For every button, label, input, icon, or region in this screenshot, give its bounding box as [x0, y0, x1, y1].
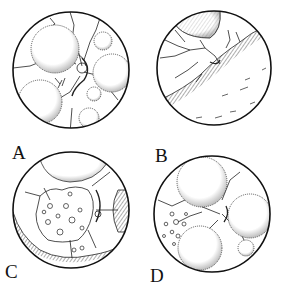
panel-label-b: B — [155, 146, 168, 165]
panel-d — [154, 156, 272, 272]
fundus-illustration — [0, 0, 285, 296]
panel-b — [150, 10, 280, 140]
panel-label-d: D — [150, 266, 164, 285]
panel-label-c: C — [5, 262, 18, 281]
panel-a — [13, 12, 131, 133]
panel-c — [10, 148, 135, 270]
panel-label-a: A — [12, 143, 26, 162]
